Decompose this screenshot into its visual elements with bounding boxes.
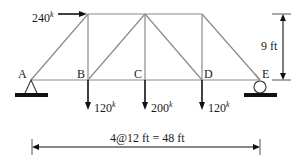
node-label-B: B bbox=[77, 68, 85, 80]
horizontal-load-label: 240k bbox=[32, 9, 54, 24]
truss-members bbox=[31, 14, 260, 80]
load-label-D: 120k bbox=[208, 99, 230, 114]
load-label-C: 200k bbox=[151, 99, 173, 114]
horizontal-load-arrow bbox=[58, 11, 87, 17]
truss-diagram: 240k A B C D E 120k 200k 120k 9 ft 4@12 … bbox=[0, 0, 305, 158]
node-label-C: C bbox=[134, 68, 142, 80]
height-dimension-label: 9 ft bbox=[261, 40, 277, 52]
roller-support-E bbox=[244, 74, 277, 97]
node-label-E: E bbox=[262, 68, 269, 80]
load-label-B: 120k bbox=[94, 99, 116, 114]
node-label-D: D bbox=[204, 68, 213, 80]
node-label-A: A bbox=[18, 68, 27, 80]
pin-support-A bbox=[15, 80, 48, 97]
span-dimension-label: 4@12 ft = 48 ft bbox=[110, 132, 184, 144]
diagonal-C-D bbox=[145, 14, 202, 80]
